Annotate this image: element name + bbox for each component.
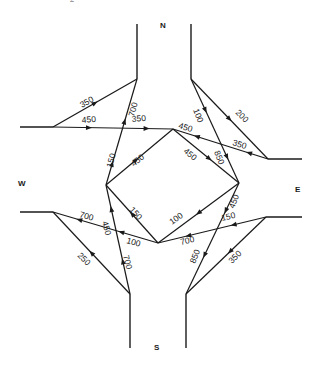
arrow-icon — [203, 251, 208, 257]
arrow-icon — [118, 231, 124, 236]
arrow-icon — [86, 125, 92, 130]
roads — [20, 24, 302, 348]
flow-arrows — [76, 102, 252, 265]
flow-label: 150 — [220, 210, 236, 223]
flow-label: 150 — [128, 205, 145, 222]
flow-label: 450 — [100, 220, 113, 237]
flow-label: 150 — [104, 152, 117, 169]
flow-label: 100 — [167, 210, 185, 227]
flow-label: 850 — [188, 248, 203, 265]
flow-label: 450 — [81, 114, 96, 125]
diamond-top-right-edge — [173, 129, 239, 183]
flow-label: 450 — [227, 193, 242, 210]
arrow-icon — [194, 135, 200, 140]
flow-labels: 350 450 350 700 150 450 450 450 350 100 … — [76, 94, 251, 271]
east-label: E — [295, 185, 301, 194]
link-w-top-450-350 — [53, 127, 173, 129]
interchange-diagram: N W E S 350 450 350 700 150 450 450 450 … — [0, 0, 316, 371]
north-label: N — [160, 21, 166, 30]
arrow-icon — [144, 126, 150, 131]
link-left-n-150-700 — [106, 79, 137, 185]
link-n-right-100-850 — [191, 79, 239, 183]
flow-label: 200 — [234, 107, 251, 124]
flow-label: 350 — [226, 248, 243, 265]
flow-label: 700 — [121, 254, 134, 271]
south-label: S — [154, 343, 160, 352]
arrow-icon — [246, 152, 252, 157]
flow-label: 450 — [177, 120, 194, 134]
flow-label: 350 — [231, 137, 248, 151]
flow-label: 350 — [78, 94, 96, 110]
west-label: W — [18, 179, 26, 188]
arrow-icon — [121, 119, 126, 125]
flow-label: 700 — [179, 234, 195, 247]
